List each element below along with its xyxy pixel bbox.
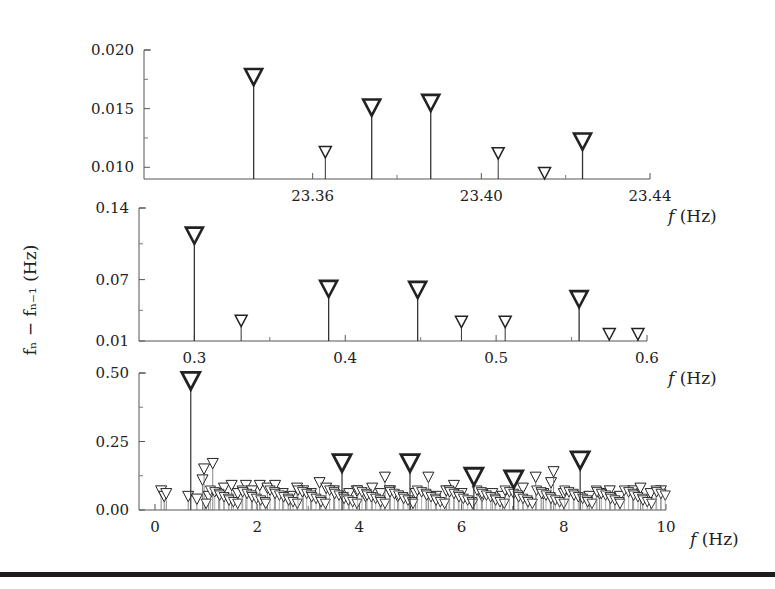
data-marker-triangle	[183, 491, 194, 501]
data-marker-triangle	[530, 472, 541, 482]
x-tick-label: 10	[656, 518, 675, 536]
y-tick-label: 0.015	[91, 100, 134, 118]
x-axis-label: f (Hz)	[666, 206, 717, 226]
y-tick-label: 0.01	[96, 332, 129, 350]
data-marker-triangle	[197, 475, 208, 485]
data-marker-triangle	[465, 468, 483, 485]
data-marker-triangle	[363, 100, 380, 116]
data-marker-triangle	[615, 499, 625, 509]
x-tick-label: 0.5	[484, 349, 508, 367]
x-tick-label: 0.4	[333, 349, 357, 367]
data-marker-triangle	[333, 455, 351, 472]
panel-top: 0.0100.0150.02023.3623.4023.44f (Hz)	[91, 41, 717, 226]
data-marker-triangle	[499, 316, 511, 327]
data-marker-triangle	[574, 134, 591, 150]
data-marker-triangle	[409, 282, 426, 298]
x-axis-label: f (Hz)	[688, 529, 739, 549]
data-marker-triangle	[320, 281, 337, 297]
data-marker-triangle	[401, 455, 419, 472]
x-tick-label: 23.36	[291, 187, 334, 205]
y-tick-label: 0.14	[96, 199, 129, 217]
bottom-divider-rule	[0, 572, 775, 577]
y-tick-label: 0.25	[96, 433, 129, 451]
data-marker-triangle	[199, 464, 210, 474]
x-tick-label: 2	[252, 518, 262, 536]
data-marker-triangle	[546, 478, 557, 488]
y-tick-label: 0.00	[96, 501, 129, 519]
data-marker-triangle	[186, 228, 203, 244]
y-tick-label: 0.07	[96, 271, 129, 289]
y-tick-label: 0.020	[91, 41, 134, 59]
figure-canvas: 0.0100.0150.02023.3623.4023.44f (Hz) 0.0…	[0, 0, 775, 589]
x-tick-label: 4	[355, 518, 365, 536]
x-tick-label: 8	[559, 518, 569, 536]
x-axis-label: f (Hz)	[666, 368, 717, 388]
data-marker-triangle	[492, 148, 504, 159]
data-marker-triangle	[423, 472, 434, 482]
data-marker-triangle	[379, 472, 390, 482]
data-marker-triangle	[548, 467, 559, 477]
y-tick-label: 0.010	[91, 158, 134, 176]
data-marker-triangle	[468, 499, 478, 509]
data-marker-triangle	[182, 372, 200, 389]
x-tick-label: 0.6	[635, 349, 659, 367]
data-marker-triangle	[539, 168, 551, 179]
x-tick-label: 23.44	[629, 187, 672, 205]
data-marker-triangle	[235, 315, 247, 326]
x-tick-label: 23.40	[460, 187, 503, 205]
data-marker-triangle	[261, 499, 271, 509]
x-tick-label: 6	[457, 518, 467, 536]
data-marker-triangle	[319, 146, 331, 157]
x-tick-label: 0.3	[182, 349, 206, 367]
data-marker-triangle	[571, 452, 589, 469]
panel-bottom: 0.000.250.500246810f (Hz)	[96, 364, 739, 549]
y-tick-label: 0.50	[96, 364, 129, 382]
data-marker-triangle	[422, 95, 439, 111]
data-marker-triangle	[632, 329, 644, 340]
data-marker-triangle	[455, 316, 467, 327]
x-tick-label: 0	[150, 518, 160, 536]
data-marker-triangle	[245, 69, 262, 85]
data-marker-triangle	[603, 329, 615, 340]
data-marker-triangle	[571, 291, 588, 307]
panel-middle: 0.010.070.140.30.40.50.6f (Hz)	[96, 199, 717, 388]
y-axis-label: fₙ − fₙ₋₁ (Hz)	[20, 245, 40, 356]
